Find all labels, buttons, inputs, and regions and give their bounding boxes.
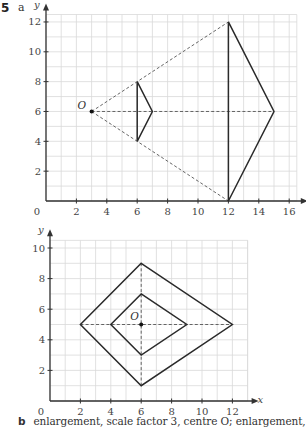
x-tick-label: 14 (252, 206, 265, 217)
y-tick-label: 10 (28, 46, 41, 57)
centre-point (139, 323, 143, 327)
x-tick-label: 4 (104, 206, 110, 217)
part-b-answer: benlargement, scale factor 3, centre O; … (18, 415, 306, 427)
y-axis-arrow-icon (47, 229, 53, 236)
x-tick-label: 16 (283, 206, 296, 217)
y-axis-arrow-icon (43, 4, 49, 11)
y-tick-label: 2 (35, 166, 41, 177)
x-axis-label: x (258, 394, 264, 405)
chart-part-a: xy246810121416246810120O (0, 0, 306, 225)
x-tick-label: 12 (222, 206, 235, 217)
x-tick-label: 10 (192, 206, 205, 217)
grid (50, 240, 248, 401)
axes: xy246810122468100 (32, 225, 263, 417)
y-tick-label: 2 (39, 365, 45, 376)
x-tick-label: 6 (134, 206, 140, 217)
x-tick-label: 8 (164, 206, 170, 217)
y-tick-label: 6 (35, 106, 41, 117)
y-axis-label: y (37, 225, 44, 235)
y-tick-label: 12 (28, 16, 41, 27)
x-tick-label: 2 (73, 206, 79, 217)
y-tick-label: 8 (39, 273, 45, 284)
centre-point (90, 109, 94, 113)
y-axis-label: y (33, 0, 40, 10)
y-tick-label: 8 (35, 76, 41, 87)
part-b-text: enlargement, scale factor 3, centre O; e… (33, 415, 306, 427)
chart-part-b: xy246810122468100O (0, 225, 306, 425)
part-b-label: b (18, 415, 25, 427)
origin-label: 0 (34, 206, 40, 217)
centre-label: O (78, 99, 87, 111)
y-tick-label: 10 (32, 243, 45, 254)
y-tick-label: 4 (39, 334, 45, 345)
y-tick-label: 6 (39, 304, 45, 315)
centre-label: O (130, 310, 139, 322)
x-axis-arrow-icon (301, 198, 306, 204)
y-tick-label: 4 (35, 136, 41, 147)
axes: xy246810121416246810120 (28, 0, 306, 217)
